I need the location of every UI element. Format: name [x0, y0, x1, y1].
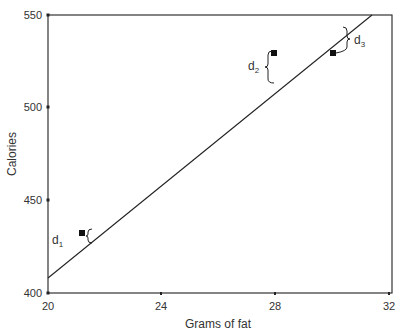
residual-label-d3: d3: [354, 33, 366, 49]
residual-bracket-d3: [336, 27, 350, 53]
x-tick-24: [160, 292, 162, 295]
x-tick-label: 20: [42, 300, 54, 312]
x-tick-32: [388, 292, 390, 295]
residual-label-d2: d2: [248, 59, 260, 75]
x-axis: 20 24 28 32 Grams of fat: [42, 292, 395, 331]
y-tick-label: 450: [24, 194, 42, 206]
data-point-1: [79, 230, 85, 236]
y-tick-550: [47, 14, 50, 17]
y-axis: 400 450 500 550 Calories: [5, 9, 50, 299]
x-tick-label: 24: [155, 300, 167, 312]
x-axis-title: Grams of fat: [185, 317, 252, 331]
plot-frame: [48, 15, 392, 293]
residual-label-d1: d1: [52, 233, 64, 249]
y-tick-label: 400: [24, 287, 42, 299]
y-tick-label: 550: [24, 9, 42, 21]
x-tick-28: [274, 292, 276, 295]
y-tick-label: 500: [24, 101, 42, 113]
regression-line: [48, 15, 372, 278]
y-tick-400: [47, 292, 50, 295]
x-tick-label: 32: [383, 300, 395, 312]
y-tick-500: [47, 106, 50, 109]
y-axis-title: Calories: [5, 132, 19, 176]
x-tick-label: 28: [269, 300, 281, 312]
scatter-plot: 400 450 500 550 Calories 20 24 28 32 Gra…: [0, 0, 405, 335]
y-tick-450: [47, 199, 50, 202]
data-point-3: [330, 50, 336, 56]
residual-bracket-d1: [86, 229, 92, 243]
